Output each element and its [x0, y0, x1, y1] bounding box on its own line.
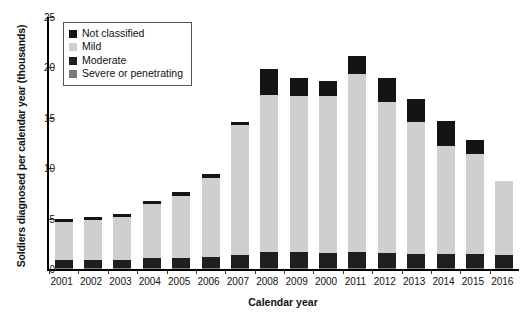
- legend-item[interactable]: Not classified: [69, 27, 183, 40]
- bar-segment: [84, 260, 102, 268]
- x-axis-tick-mark: [255, 270, 256, 274]
- bar-segment: [348, 56, 366, 73]
- x-axis-tick-label: 2007: [223, 276, 253, 287]
- bar-segment: [407, 99, 425, 122]
- bar-segment: [290, 96, 308, 253]
- bar-stack[interactable]: [319, 81, 337, 269]
- bar-stack[interactable]: [437, 121, 455, 269]
- bar-stack[interactable]: [466, 140, 484, 269]
- bar-stack[interactable]: [84, 217, 102, 269]
- bar-segment: [378, 268, 396, 269]
- bar-stack[interactable]: [407, 99, 425, 269]
- bar-segment: [55, 260, 73, 268]
- bar-segment: [84, 268, 102, 269]
- x-axis-tick-label: 2012: [370, 276, 400, 287]
- bar-segment: [113, 217, 131, 260]
- bar-stack[interactable]: [55, 219, 73, 269]
- legend-item[interactable]: Mild: [69, 40, 183, 53]
- x-axis-tick-label: 2015: [458, 276, 488, 287]
- bar-segment: [437, 121, 455, 146]
- y-axis-tick-mark: [49, 219, 54, 220]
- bar-segment: [172, 258, 190, 268]
- bar-segment: [466, 140, 484, 154]
- bar-segment: [495, 255, 513, 268]
- legend-item[interactable]: Moderate: [69, 54, 183, 67]
- y-axis-tick-mark: [49, 17, 54, 18]
- legend-swatch-icon: [69, 43, 77, 51]
- bar-segment: [378, 253, 396, 268]
- legend-item-label: Moderate: [82, 54, 126, 67]
- bar-stack[interactable]: [113, 214, 131, 269]
- bar-stack[interactable]: [231, 122, 249, 269]
- x-axis-tick-mark: [284, 270, 285, 274]
- x-axis-tick-mark: [460, 270, 461, 274]
- bar-segment: [437, 254, 455, 268]
- bar-segment: [143, 204, 161, 258]
- bar-segment: [172, 196, 190, 258]
- x-axis-tick-label: 2002: [76, 276, 106, 287]
- bar-segment: [84, 220, 102, 261]
- bar-segment: [319, 96, 337, 253]
- bar-segment: [378, 102, 396, 253]
- bar-segment: [202, 268, 220, 269]
- bar-segment: [495, 268, 513, 269]
- legend-swatch-icon: [69, 70, 77, 78]
- y-axis-tick-mark: [49, 67, 54, 68]
- bar-segment: [143, 258, 161, 268]
- bar-segment: [466, 154, 484, 254]
- x-axis-tick-mark: [49, 270, 50, 274]
- bar-segment: [319, 81, 337, 96]
- x-axis-tick-label: 2014: [429, 276, 459, 287]
- x-axis-tick-label: 2016: [487, 276, 517, 287]
- legend-swatch-icon: [69, 30, 77, 38]
- x-axis-tick-mark: [137, 270, 138, 274]
- y-axis-tick-mark: [49, 118, 54, 119]
- legend-item[interactable]: Severe or penetrating: [69, 67, 183, 80]
- x-axis-tick-mark: [78, 270, 79, 274]
- bar-stack[interactable]: [290, 78, 308, 269]
- bar-segment: [290, 268, 308, 269]
- bar-segment: [466, 254, 484, 268]
- bar-segment: [260, 95, 278, 252]
- bar-segment: [290, 78, 308, 96]
- bar-stack[interactable]: [202, 174, 220, 269]
- bar-segment: [466, 268, 484, 269]
- x-axis-tick-mark: [343, 270, 344, 274]
- x-axis-tick-mark: [108, 270, 109, 274]
- bar-segment: [378, 78, 396, 102]
- bar-segment: [495, 181, 513, 255]
- bar-stack[interactable]: [378, 78, 396, 269]
- bar-segment: [290, 252, 308, 267]
- x-axis-tick-label: 2005: [164, 276, 194, 287]
- legend-swatch-icon: [69, 57, 77, 65]
- bar-segment: [407, 254, 425, 268]
- x-axis-tick-label: 2008: [252, 276, 282, 287]
- bar-stack[interactable]: [172, 192, 190, 269]
- bar-segment: [202, 178, 220, 257]
- x-axis-tick-mark: [225, 270, 226, 274]
- x-axis-tick-label: 2004: [135, 276, 165, 287]
- legend-item-label: Mild: [82, 40, 101, 53]
- bar-segment: [55, 268, 73, 269]
- x-axis-tick-label: 2009: [282, 276, 312, 287]
- bar-segment: [260, 268, 278, 269]
- bar-segment: [437, 268, 455, 269]
- x-axis-tick-mark: [372, 270, 373, 274]
- bar-segment: [172, 268, 190, 269]
- bar-stack[interactable]: [348, 56, 366, 269]
- x-axis-tick-mark: [490, 270, 491, 274]
- chart-legend: Not classifiedMildModerateSevere or pene…: [63, 22, 192, 86]
- bar-segment: [55, 222, 73, 261]
- bar-segment: [113, 268, 131, 269]
- chart-figure: Soldiers diagnosed per calendar year (th…: [0, 0, 531, 316]
- bar-segment: [202, 257, 220, 268]
- bar-segment: [231, 268, 249, 269]
- x-axis-tick-mark: [196, 270, 197, 274]
- bar-stack[interactable]: [143, 201, 161, 270]
- bar-segment: [113, 260, 131, 268]
- bar-stack[interactable]: [495, 181, 513, 269]
- bar-segment: [348, 74, 366, 252]
- bar-stack[interactable]: [260, 69, 278, 269]
- bar-segment: [231, 125, 249, 255]
- x-axis-tick-label: 2003: [105, 276, 135, 287]
